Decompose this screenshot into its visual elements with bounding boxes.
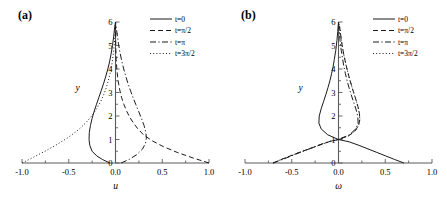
- svg-text:ω: ω: [335, 181, 342, 191]
- svg-text:2: 2: [331, 111, 335, 121]
- svg-text:5: 5: [331, 41, 335, 51]
- svg-text:3: 3: [108, 88, 112, 98]
- svg-text:2: 2: [108, 111, 112, 121]
- legend-label-0: t=0: [398, 15, 408, 24]
- svg-text:u: u: [113, 181, 118, 191]
- curve-t32: [273, 22, 360, 163]
- svg-text:0.0: 0.0: [333, 167, 344, 177]
- figure-container: (a) -1.0-0.50.00.51.0u0123456yt=0t=π/2t=…: [0, 0, 447, 198]
- panel-a-plot: -1.0-0.50.00.51.0u0123456yt=0t=π/2t=πt=3…: [0, 0, 223, 198]
- svg-text:1: 1: [108, 135, 112, 145]
- svg-text:0.0: 0.0: [110, 167, 121, 177]
- panel-b-plot: -1.0-0.50.00.51.0ω0123456yt=0t=π/2t=πt=3…: [223, 0, 446, 198]
- svg-text:-0.5: -0.5: [285, 167, 298, 177]
- svg-text:6: 6: [331, 17, 335, 27]
- legend-label-1: t=π/2: [398, 26, 414, 35]
- svg-text:-0.5: -0.5: [62, 167, 75, 177]
- legend-label-2: t=π: [398, 38, 408, 47]
- svg-text:-1.0: -1.0: [238, 167, 251, 177]
- curve-t2: [273, 22, 360, 163]
- svg-text:0.5: 0.5: [380, 167, 391, 177]
- svg-text:y: y: [74, 83, 80, 93]
- svg-text:y: y: [297, 83, 303, 93]
- svg-text:1.0: 1.0: [204, 167, 215, 177]
- svg-text:1: 1: [331, 135, 335, 145]
- curve-t: [273, 22, 358, 163]
- legend-label-2: t=π: [175, 38, 185, 47]
- svg-text:3: 3: [331, 88, 335, 98]
- legend-label-0: t=0: [175, 15, 185, 24]
- curve-t2: [116, 22, 210, 163]
- svg-text:6: 6: [108, 17, 112, 27]
- svg-text:1.0: 1.0: [427, 167, 438, 177]
- panel-b: (b) -1.0-0.50.00.51.0ω0123456yt=0t=π/2t=…: [223, 0, 446, 198]
- curve-t32: [22, 22, 116, 163]
- svg-text:0.5: 0.5: [157, 167, 168, 177]
- panel-a: (a) -1.0-0.50.00.51.0u0123456yt=0t=π/2t=…: [0, 0, 223, 198]
- legend-label-1: t=π/2: [175, 26, 191, 35]
- legend-label-3: t=3π/2: [175, 49, 195, 58]
- svg-text:0: 0: [331, 158, 335, 168]
- svg-text:-1.0: -1.0: [15, 167, 28, 177]
- legend-label-3: t=3π/2: [398, 49, 418, 58]
